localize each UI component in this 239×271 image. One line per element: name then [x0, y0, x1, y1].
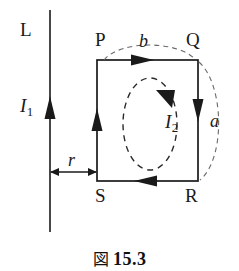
wire-current-arrowhead — [45, 96, 56, 119]
figure-caption-mark: 図 — [93, 251, 110, 268]
label-current-I2-symbol: I — [165, 111, 171, 132]
loop-arrowhead-top-PQ — [131, 55, 154, 66]
distance-arrowhead-right — [88, 168, 97, 176]
figure-drawing-canvas — [0, 0, 239, 271]
label-distance-r: r — [68, 151, 75, 169]
physics-figure: L I1 r P b Q a I2 S R 図15.3 — [0, 0, 239, 271]
label-current-I1-subscript: 1 — [27, 104, 33, 119]
label-corner-S: S — [95, 186, 106, 205]
label-side-b: b — [139, 32, 148, 50]
loop-current-ellipse-arrowhead — [156, 90, 175, 108]
label-side-a: a — [210, 112, 219, 130]
dimension-arc-b — [104, 45, 196, 60]
loop-arrowhead-bottom-RS — [134, 176, 157, 187]
distance-arrowhead-left — [50, 168, 59, 176]
label-current-I2-subscript: 2 — [172, 120, 178, 135]
current-loop-rectangle — [97, 60, 198, 181]
loop-arrowhead-right-QR — [193, 99, 204, 122]
figure-caption-number: 15.3 — [113, 249, 147, 269]
label-corner-P: P — [95, 30, 106, 49]
label-current-I1: I1 — [20, 96, 33, 119]
label-current-I1-symbol: I — [20, 95, 26, 116]
figure-caption: 図15.3 — [0, 246, 239, 270]
loop-arrowhead-left-SP — [92, 108, 103, 131]
label-current-I2: I2 — [165, 112, 178, 135]
label-corner-Q: Q — [186, 30, 200, 49]
label-corner-R: R — [185, 186, 198, 205]
label-wire-L: L — [20, 20, 32, 39]
